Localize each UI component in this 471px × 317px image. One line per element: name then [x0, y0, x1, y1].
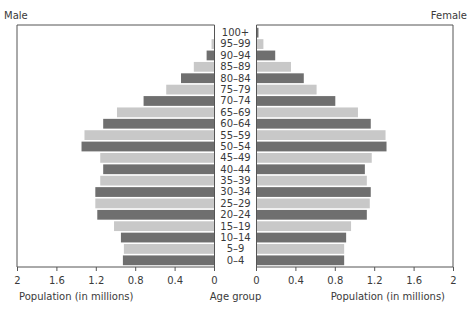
female-bar-15–19: [257, 221, 352, 231]
male-bar-50–54: [82, 142, 215, 152]
female-bar-95–99: [257, 39, 264, 49]
female-bar-10–14: [257, 233, 347, 243]
female-bar-85–89: [257, 62, 291, 72]
female-bar-75–79: [257, 85, 317, 95]
male-title: Male: [4, 10, 28, 21]
female-bar-65–69: [257, 107, 358, 117]
tick-label: 0.4: [288, 275, 304, 286]
male-bar-0–4: [123, 255, 215, 265]
tick-label: 0.8: [327, 275, 343, 286]
male-x-ticks: 21.61.20.80.40: [14, 267, 217, 286]
population-pyramid-chart: Male Female 100+95–9990–9485–8980–8475–7…: [0, 0, 471, 317]
male-bar-80–84: [181, 73, 214, 83]
female-bar-50–54: [257, 142, 387, 152]
age-group-axis-label: Age group: [210, 291, 262, 302]
male-bar-90–94: [207, 51, 215, 61]
female-bar-25–29: [257, 199, 370, 209]
age-label: 90–94: [220, 50, 250, 61]
female-bar-5–9: [257, 244, 345, 254]
male-bar-10–14: [121, 233, 215, 243]
female-bars: [257, 28, 387, 265]
age-label: 35–39: [220, 175, 250, 186]
female-bar-70–74: [257, 96, 336, 106]
tick-label: 0: [253, 275, 259, 286]
male-bar-85–89: [194, 62, 215, 72]
age-label: 40–44: [220, 164, 250, 175]
male-bar-55–59: [84, 130, 214, 140]
female-bar-90–94: [257, 51, 276, 61]
tick-label: 0.8: [128, 275, 144, 286]
male-bar-35–39: [100, 176, 214, 186]
female-bar-40–44: [257, 164, 365, 174]
male-bar-60–64: [103, 119, 214, 129]
female-bar-55–59: [257, 130, 386, 140]
female-bar-0–4: [257, 255, 345, 265]
male-bar-75–79: [166, 85, 214, 95]
tick-label: 0.4: [167, 275, 183, 286]
male-bar-70–74: [144, 96, 215, 106]
age-label: 50–54: [220, 141, 250, 152]
female-bar-20–24: [257, 210, 367, 220]
age-label: 20–24: [220, 209, 250, 220]
age-label: 100+: [222, 27, 249, 38]
age-label: 80–84: [220, 73, 250, 84]
age-label: 65–69: [220, 107, 250, 118]
age-label: 25–29: [220, 198, 250, 209]
tick-label: 2: [450, 275, 456, 286]
male-bar-45–49: [100, 153, 214, 163]
female-x-ticks: 00.40.81.21.62: [253, 267, 456, 286]
female-title: Female: [431, 10, 467, 21]
age-label: 70–74: [220, 95, 250, 106]
male-bar-25–29: [95, 199, 214, 209]
age-label: 10–14: [220, 232, 250, 243]
male-bar-20–24: [97, 210, 214, 220]
male-bar-65–69: [117, 107, 215, 117]
age-label: 75–79: [220, 84, 250, 95]
male-bar-30–34: [95, 187, 214, 197]
tick-label: 2: [14, 275, 20, 286]
female-bar-45–49: [257, 153, 372, 163]
age-label: 15–19: [220, 221, 250, 232]
tick-label: 1.2: [367, 275, 383, 286]
age-label: 85–89: [220, 61, 250, 72]
male-x-axis-label: Population (in millions): [19, 291, 133, 302]
male-bar-5–9: [124, 244, 215, 254]
age-label: 60–64: [220, 118, 250, 129]
age-group-labels: 100+95–9990–9485–8980–8475–7970–7465–696…: [220, 27, 250, 266]
age-label: 45–49: [220, 152, 250, 163]
age-label: 95–99: [220, 38, 250, 49]
tick-label: 0: [211, 275, 217, 286]
female-x-axis-label: Population (in millions): [331, 291, 445, 302]
female-bar-60–64: [257, 119, 371, 129]
female-bar-35–39: [257, 176, 367, 186]
age-label: 5–9: [227, 243, 245, 254]
age-label: 30–34: [220, 186, 250, 197]
age-label: 55–59: [220, 130, 250, 141]
male-bars: [82, 39, 215, 265]
female-bar-30–34: [257, 187, 371, 197]
female-bar-80–84: [257, 73, 304, 83]
tick-label: 1.2: [88, 275, 104, 286]
male-bar-40–44: [103, 164, 214, 174]
male-bar-15–19: [114, 221, 214, 231]
tick-label: 1.6: [49, 275, 65, 286]
tick-label: 1.6: [406, 275, 422, 286]
age-label: 0–4: [227, 255, 245, 266]
